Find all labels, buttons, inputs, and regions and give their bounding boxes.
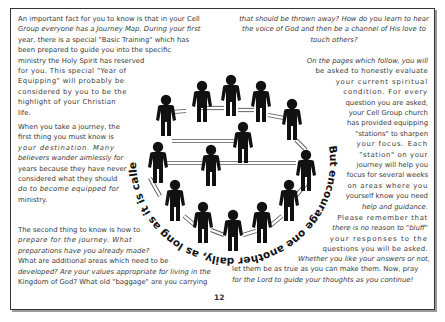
circle-of-people-illustration: But encourage one another daily, as long… <box>0 0 445 322</box>
page-number: 12 <box>214 293 224 302</box>
